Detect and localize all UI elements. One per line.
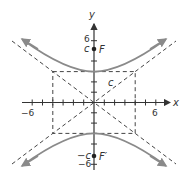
y-axis-label: y bbox=[88, 9, 96, 20]
focus-bottom-label: F′ bbox=[99, 151, 108, 162]
c-diagonal-label: c bbox=[108, 77, 114, 88]
x-axis-label: x bbox=[172, 97, 179, 108]
c-top-label: c bbox=[84, 43, 90, 54]
focus-top-point bbox=[92, 47, 97, 52]
focus-bottom-point bbox=[92, 154, 97, 159]
hyperbola-diagram: y x −6 6 6 −6 c F −c F′ c bbox=[0, 0, 189, 181]
x-pos-tick-label: 6 bbox=[152, 108, 158, 118]
c-bottom-label: −c bbox=[77, 150, 91, 161]
x-neg-tick-label: −6 bbox=[21, 108, 35, 118]
focus-top-label: F bbox=[99, 44, 105, 55]
